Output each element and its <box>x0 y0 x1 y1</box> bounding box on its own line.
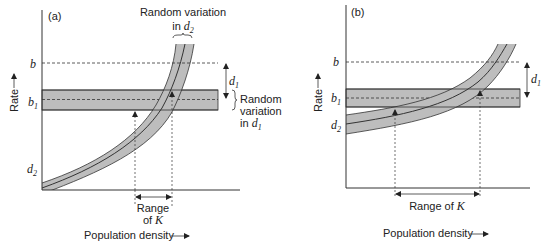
y-axis-label-a: Rate <box>8 89 20 112</box>
range-k-line1: Range <box>137 202 169 214</box>
panel-a-label: (a) <box>48 10 61 22</box>
d1-label-b: d1 <box>531 72 541 88</box>
b-label-b: b <box>333 55 339 69</box>
panel-b-label: (b) <box>351 6 364 18</box>
b1-band <box>42 90 218 110</box>
random-d1-line1: Random <box>240 93 282 105</box>
random-d2-line2: in d2 <box>172 19 194 35</box>
panel-b: (b) b b1 d2 d1 Range of K Population den… <box>312 5 541 239</box>
x-axis-label-a: Population density <box>84 229 174 241</box>
b-label: b <box>30 57 36 71</box>
svg-text:Rate: Rate <box>8 89 20 112</box>
range-k-label-b: Range of K <box>409 199 466 213</box>
b1-label: b1 <box>28 95 38 111</box>
x-axis-label-b: Population density <box>383 227 473 239</box>
d1-label: d1 <box>229 74 239 90</box>
svg-text:Rate: Rate <box>312 89 324 112</box>
y-axis-label-b: Rate <box>312 89 324 112</box>
d2-label: d2 <box>27 162 37 178</box>
d2-label-b: d2 <box>331 118 341 134</box>
range-k-line2: of K <box>143 213 164 227</box>
b1-label-b: b1 <box>331 91 341 107</box>
brace-d1 <box>232 90 237 110</box>
d2-curve-band <box>42 44 194 194</box>
random-d1-line3: in d1 <box>240 116 262 132</box>
panel-a: (a) b b1 d2 d1 Random variation in d2 Ra… <box>8 6 282 241</box>
random-d2-line1: Random variation <box>140 6 226 18</box>
random-d1-line2: variation <box>240 105 282 117</box>
density-dependence-diagram: (a) b b1 d2 d1 Random variation in d2 Ra… <box>0 0 552 251</box>
